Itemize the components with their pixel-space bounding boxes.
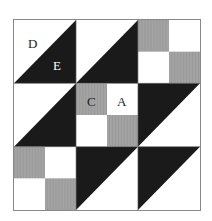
block-r0c2-gray-tl [138, 20, 169, 52]
block-r1c1-gray-br [107, 115, 138, 147]
block-r0c2-gray-br [169, 52, 200, 84]
block-r2c0-gray-tl [14, 147, 45, 179]
label-d: D [28, 37, 37, 50]
quilt-diagram [13, 19, 201, 211]
label-c: C [87, 95, 96, 108]
block-r2c0-gray-br [45, 178, 76, 210]
label-a: A [117, 95, 126, 108]
label-e: E [53, 59, 61, 72]
quilt-svg [14, 20, 200, 210]
